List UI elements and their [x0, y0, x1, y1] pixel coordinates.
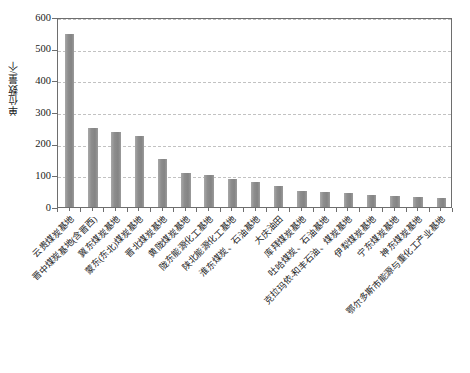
x-tick-mark-minor	[208, 208, 209, 211]
x-tick-mark	[80, 208, 81, 212]
bar	[111, 132, 121, 207]
x-tick-mark	[243, 208, 244, 212]
x-tick-mark	[103, 208, 104, 212]
x-tick-mark-minor	[371, 208, 372, 211]
gridline	[58, 82, 451, 83]
bar	[228, 179, 238, 207]
x-tick-mark-minor	[92, 208, 93, 211]
bar	[251, 182, 261, 207]
bar	[297, 191, 307, 207]
bar	[135, 136, 145, 207]
x-tick-mark-minor	[347, 208, 348, 211]
bar	[390, 196, 400, 207]
bar	[274, 186, 284, 207]
bar	[320, 192, 330, 207]
gridline	[58, 19, 451, 20]
x-tick-mark	[173, 208, 174, 212]
x-tick-mark-minor	[69, 208, 70, 211]
x-tick-mark	[406, 208, 407, 212]
y-tick-label: 200	[17, 139, 51, 149]
bar	[204, 175, 214, 207]
bar	[344, 193, 354, 207]
x-tick-mark-minor	[255, 208, 256, 211]
bar	[181, 173, 191, 207]
x-tick-mark	[382, 208, 383, 212]
x-tick-mark	[289, 208, 290, 212]
x-tick-mark	[220, 208, 221, 212]
x-tick-mark	[266, 208, 267, 212]
x-tick-mark-minor	[301, 208, 302, 211]
x-tick-mark-minor	[278, 208, 279, 211]
bar	[437, 198, 447, 207]
bar	[367, 195, 377, 207]
x-tick-mark	[127, 208, 128, 212]
x-tick-mark	[196, 208, 197, 212]
x-tick-mark-minor	[417, 208, 418, 211]
x-tick-mark	[429, 208, 430, 212]
x-tick-mark	[336, 208, 337, 212]
x-tick-mark-minor	[138, 208, 139, 211]
y-tick-label: 400	[17, 76, 51, 86]
y-tick-label: 500	[17, 44, 51, 54]
y-tick-label: 100	[17, 171, 51, 181]
bar	[413, 197, 423, 207]
gridline	[58, 114, 451, 115]
x-tick-mark	[359, 208, 360, 212]
x-tick-mark-minor	[115, 208, 116, 211]
bar	[158, 159, 168, 207]
x-tick-mark	[150, 208, 151, 212]
x-tick-mark-minor	[324, 208, 325, 211]
plot-area	[57, 18, 452, 208]
x-tick-mark-minor	[394, 208, 395, 211]
x-tick-mark	[452, 208, 453, 212]
x-tick-mark	[57, 208, 58, 212]
y-tick-label: 300	[17, 108, 51, 118]
bar	[88, 128, 98, 207]
gridline	[58, 51, 451, 52]
y-tick-label: 0	[17, 203, 51, 213]
bar-chart-figure: 单位数量/个 0100200300400500600 云贵煤炭基地晋中煤炭基地(…	[0, 0, 470, 373]
x-tick-mark	[313, 208, 314, 212]
x-tick-mark-minor	[440, 208, 441, 211]
x-tick-mark-minor	[185, 208, 186, 211]
bar	[65, 34, 75, 207]
y-tick-label: 600	[17, 13, 51, 23]
x-tick-mark-minor	[162, 208, 163, 211]
x-tick-mark-minor	[231, 208, 232, 211]
